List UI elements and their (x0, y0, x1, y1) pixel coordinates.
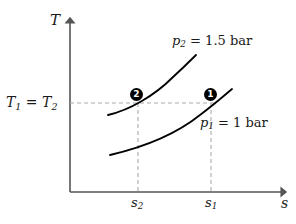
temp-sub-2: 2 (51, 101, 57, 112)
x-axis-label: s (281, 196, 288, 210)
temperature-axis-value-label: T1 = T2 (6, 95, 57, 111)
ts-diagram-figure: T s T1 = T2 p2 = 1.5 bar p1 = 1 bar s2 s… (0, 0, 296, 224)
x-tick-label-s1: s1 (205, 196, 217, 211)
p2-value: = 1.5 bar (186, 33, 252, 48)
s2-symbol: s (131, 195, 138, 210)
temp-base-1: T (6, 94, 15, 110)
p1-value: = 1 bar (214, 115, 268, 130)
isobar-label-p1: p1 = 1 bar (200, 116, 268, 131)
x-tick-label-s2: s2 (131, 196, 143, 211)
state-point-marker-1: 1 (204, 88, 217, 101)
y-axis-label: T (50, 13, 60, 28)
s2-subscript: 2 (138, 201, 144, 211)
temp-base-2: T (42, 94, 51, 110)
s1-symbol: s (205, 195, 212, 210)
isobar-curve-p2 (108, 55, 196, 115)
s1-subscript: 1 (212, 201, 218, 211)
temp-equals: = (21, 94, 42, 110)
isobar-label-p2: p2 = 1.5 bar (172, 34, 252, 49)
state-point-marker-2: 2 (130, 88, 143, 101)
